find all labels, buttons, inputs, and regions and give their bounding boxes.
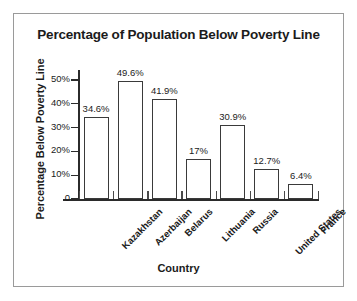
y-axis-tick-label: 50% (30, 73, 70, 84)
y-axis-tick-mark (71, 198, 78, 199)
y-axis-tick-mark (71, 175, 78, 176)
y-axis-tick-label: 40% (30, 97, 70, 108)
bar-value-label: 12.7% (237, 155, 297, 166)
bar (186, 159, 211, 199)
y-axis-tick-labels: 010%20%30%40%50% (26, 0, 70, 301)
x-axis-tick-mark (250, 191, 251, 199)
bar-value-label: 30.9% (203, 111, 263, 122)
bar (84, 117, 109, 199)
x-axis-title: Country (14, 262, 343, 274)
x-axis-line (63, 199, 319, 201)
x-axis-tick-mark (284, 191, 285, 199)
y-axis-tick-label: 0 (30, 192, 70, 203)
x-axis-tick-mark (113, 191, 114, 199)
bar (118, 81, 143, 199)
bar-value-label: 49.6% (100, 67, 160, 78)
y-axis-tick-label: 30% (30, 121, 70, 132)
chart-figure: Percentage of Population Below Poverty L… (0, 0, 357, 301)
y-axis-tick-label: 10% (30, 168, 70, 179)
bar-value-label: 41.9% (134, 85, 194, 96)
x-axis-tick-mark (318, 191, 319, 199)
bar (288, 184, 313, 199)
x-axis-tick-mark (216, 191, 217, 199)
y-axis-tick-label: 20% (30, 144, 70, 155)
y-axis-tick-mark (71, 127, 78, 128)
y-axis-tick-mark (71, 151, 78, 152)
y-axis-line (78, 70, 80, 200)
x-axis-tick-mark (147, 191, 148, 199)
x-axis-tick-mark (79, 191, 80, 199)
y-axis-tick-mark (71, 79, 78, 80)
x-axis-tick-mark (181, 191, 182, 199)
bar-value-label: 6.4% (271, 170, 331, 181)
